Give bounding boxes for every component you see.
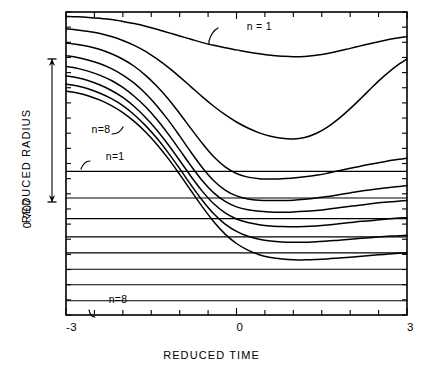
curve-n8 — [66, 91, 407, 260]
chart-figure: REDUCED TIME REDUCED RADIUS 0.707 -3 0 3… — [0, 0, 423, 370]
data-curves — [66, 17, 407, 260]
scale-bracket-arrow — [48, 59, 57, 202]
reference-level-lines — [66, 171, 407, 300]
level-label-n1: n=1 — [106, 150, 125, 162]
curve-label-n1-top: n = 1 — [247, 20, 272, 32]
level-label-n8: n=8 — [109, 293, 128, 305]
annotation-leader-lines — [81, 28, 218, 317]
x-axis-title: REDUCED TIME — [0, 349, 423, 361]
scale-annotation-label: 0.707 — [21, 183, 33, 243]
curve-n4 — [66, 56, 407, 201]
plot-canvas — [0, 0, 423, 370]
curve-n5 — [66, 67, 407, 213]
curve-label-n8-upper: n=8 — [92, 123, 111, 135]
curve-n1 — [66, 17, 407, 57]
